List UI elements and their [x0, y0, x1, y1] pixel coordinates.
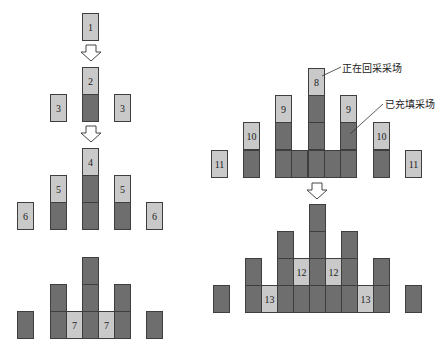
active-stope-cell: 9: [340, 95, 357, 123]
filled-stope-cell: [340, 122, 357, 150]
active-stope-cell: 3: [50, 94, 67, 122]
filled-stope-cell: [213, 285, 230, 313]
down-arrow-icon: [80, 44, 102, 62]
active-stope-cell: 11: [405, 150, 422, 178]
filled-stope-cell: [17, 311, 34, 339]
active-stope-label: 正在回采采场: [342, 60, 402, 75]
active-stope-cell: 12: [325, 258, 342, 286]
active-stope-cell: 4: [82, 148, 99, 176]
filled-stope-cell: [373, 258, 390, 286]
filled-stope-cell: [275, 150, 292, 178]
filled-stope-cell: [405, 285, 422, 313]
filled-stope-cell: [82, 311, 99, 339]
active-stope-cell: 13: [357, 285, 374, 313]
filled-stope-cell: [324, 150, 341, 178]
active-stope-cell: 9: [275, 95, 292, 123]
filled-stope-cell: [50, 311, 67, 339]
active-stope-cell: 12: [293, 258, 310, 286]
filled-stope-label: 已充填采场: [385, 96, 435, 111]
active-stope-cell: 8: [308, 68, 325, 96]
filled-stope-cell: [275, 122, 292, 150]
filled-stope-cell: [325, 285, 342, 313]
filled-stope-cell: [373, 150, 390, 178]
filled-stope-cell: [82, 175, 99, 203]
filled-stope-cell: [308, 150, 325, 178]
filled-stope-cell: [340, 150, 357, 178]
filled-stope-cell: [114, 284, 131, 312]
filled-stope-cell: [291, 150, 308, 178]
filled-stope-cell: [373, 285, 390, 313]
active-stope-cell: 11: [211, 150, 228, 178]
down-arrow-icon: [306, 182, 328, 200]
filled-stope-cell: [82, 284, 99, 312]
active-stope-cell: 6: [146, 202, 163, 230]
filled-stope-cell: [308, 122, 325, 150]
active-stope-cell: 3: [114, 94, 131, 122]
filled-stope-cell: [114, 202, 131, 230]
filled-stope-cell: [277, 258, 294, 286]
filled-stope-cell: [309, 258, 326, 286]
filled-stope-cell: [308, 95, 325, 123]
filled-stope-cell: [309, 285, 326, 313]
down-arrow-icon: [80, 125, 102, 143]
active-stope-cell: 7: [66, 311, 83, 339]
filled-stope-cell: [245, 285, 262, 313]
active-stope-cell: 10: [373, 122, 390, 150]
filled-stope-cell: [82, 94, 99, 122]
filled-stope-cell: [309, 231, 326, 259]
active-stope-cell: 10: [243, 122, 260, 150]
filled-stope-cell: [309, 204, 326, 232]
filled-stope-cell: [82, 202, 99, 230]
filled-stope-cell: [82, 257, 99, 285]
active-stope-cell: 1: [82, 13, 99, 41]
filled-stope-cell: [243, 150, 260, 178]
active-stope-cell: 13: [261, 285, 278, 313]
filled-stope-cell: [341, 258, 358, 286]
active-stope-cell: 5: [114, 175, 131, 203]
active-stope-cell: 2: [82, 67, 99, 95]
active-stope-cell: 7: [98, 311, 115, 339]
filled-stope-cell: [277, 231, 294, 259]
filled-stope-cell: [146, 311, 163, 339]
filled-stope-cell: [50, 284, 67, 312]
filled-stope-cell: [341, 231, 358, 259]
filled-stope-cell: [277, 285, 294, 313]
active-stope-cell: 5: [50, 175, 67, 203]
filled-stope-cell: [293, 285, 310, 313]
filled-stope-cell: [50, 202, 67, 230]
active-stope-cell: 6: [17, 202, 34, 230]
filled-stope-cell: [245, 258, 262, 286]
filled-stope-cell: [114, 311, 131, 339]
filled-stope-cell: [341, 285, 358, 313]
